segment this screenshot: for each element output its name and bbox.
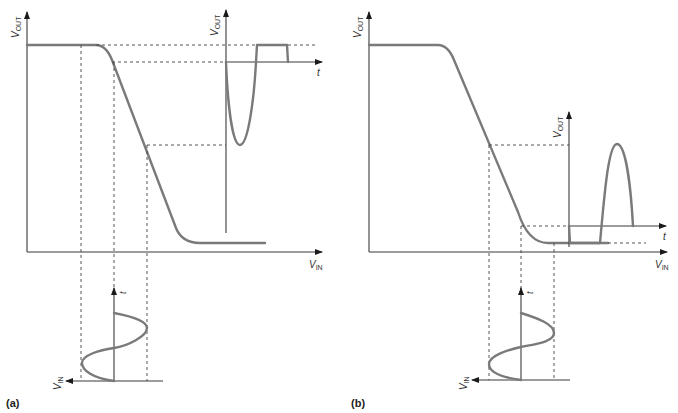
panel-label-a: (a) [6,397,19,409]
transfer-curve [369,45,608,243]
transfer-curve [27,45,265,243]
inset-t-label: t [663,231,667,242]
input-t-label: t [525,291,535,294]
inset-t-label: t [317,67,321,78]
input-vin-label: VIN [52,376,64,390]
vout-label: VOUT [10,16,22,38]
vout-label: VOUT [352,16,364,38]
vin-label: VIN [655,259,669,271]
output-waveform [226,45,288,145]
panel-a: VOUT VIN VOUT t t VIN [10,10,323,390]
panel-b: VOUT VIN VOUT t t VIN [352,12,669,390]
inset-vout-label: VOUT [209,14,221,36]
vin-label: VIN [309,259,323,271]
inset-vout-label: VOUT [552,116,564,138]
input-t-label: t [118,291,128,294]
panel-label-b: (b) [351,397,365,409]
input-vin-label: VIN [458,376,470,390]
transfer-characteristic-diagram: VOUT VIN VOUT t t VIN VOUT VIN VOUT t t [0,0,678,413]
output-waveform [569,144,633,243]
